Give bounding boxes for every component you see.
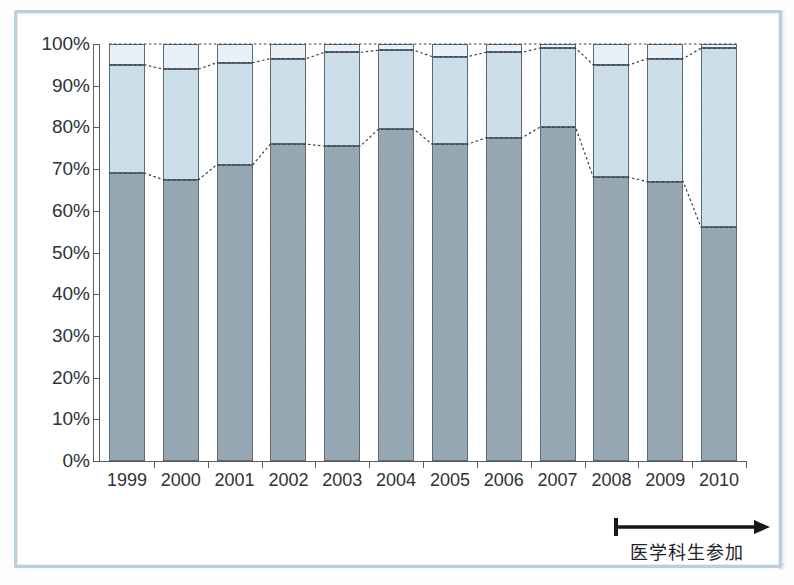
bar-segment-middle-2005	[432, 57, 468, 145]
y-axis-tick-70	[93, 169, 100, 170]
x-axis-label-1999: 1999	[107, 470, 147, 491]
bar-segment-top-2000	[163, 44, 199, 69]
x-axis-tick-2008	[638, 461, 639, 468]
bar-segment-middle-2003	[324, 52, 360, 146]
y-axis-tick-60	[93, 211, 100, 212]
bar-2008[interactable]	[593, 44, 629, 461]
y-axis-tick-20	[93, 378, 100, 379]
scanned-page: 0%10%20%30%40%50%60%70%80%90%100% 199920…	[0, 0, 794, 585]
bar-segment-bottom-2005	[432, 144, 468, 461]
x-axis-label-2010: 2010	[699, 470, 739, 491]
bar-2000[interactable]	[163, 44, 199, 461]
bar-segment-middle-2007	[540, 48, 576, 127]
bar-segment-middle-2000	[163, 69, 199, 180]
x-axis-label-2008: 2008	[591, 470, 631, 491]
bar-segment-middle-2009	[647, 59, 683, 182]
x-axis-label-2003: 2003	[322, 470, 362, 491]
bar-2006[interactable]	[486, 44, 522, 461]
y-axis-label-30: 30%	[52, 325, 90, 347]
bar-2005[interactable]	[432, 44, 468, 461]
x-axis-label-2006: 2006	[484, 470, 524, 491]
y-axis-tick-10	[93, 419, 100, 420]
bar-segment-bottom-2006	[486, 138, 522, 461]
bar-segment-bottom-2003	[324, 146, 360, 461]
bar-segment-bottom-2004	[378, 129, 414, 461]
bar-segment-bottom-2002	[270, 144, 306, 461]
stacked-bar-chart: 0%10%20%30%40%50%60%70%80%90%100% 199920…	[14, 10, 776, 562]
x-axis-label-2001: 2001	[215, 470, 255, 491]
x-axis-label-2009: 2009	[645, 470, 685, 491]
y-axis-tick-100	[93, 44, 100, 45]
x-axis-tick-2007	[585, 461, 586, 468]
x-axis-label-2004: 2004	[376, 470, 416, 491]
y-axis-label-90: 90%	[52, 75, 90, 97]
x-axis-label-2007: 2007	[538, 470, 578, 491]
bar-segment-middle-2001	[217, 63, 253, 165]
y-axis-label-80: 80%	[52, 116, 90, 138]
y-axis-bracket	[93, 44, 94, 461]
connector-line-bottom-segment	[109, 127, 737, 227]
y-axis-label-20: 20%	[52, 367, 90, 389]
x-axis-tick-1999	[154, 461, 155, 468]
x-axis-tick-2000	[208, 461, 209, 468]
bar-segment-middle-2008	[593, 65, 629, 178]
bar-2007[interactable]	[540, 44, 576, 461]
x-axis-label-2002: 2002	[268, 470, 308, 491]
bar-2009[interactable]	[647, 44, 683, 461]
bar-segment-top-2001	[217, 44, 253, 63]
bar-2003[interactable]	[324, 44, 360, 461]
bar-segment-top-2009	[647, 44, 683, 59]
bar-segment-bottom-2010	[701, 227, 737, 461]
bar-segment-middle-2010	[701, 48, 737, 227]
bar-2002[interactable]	[270, 44, 306, 461]
x-axis-tick-2002	[315, 461, 316, 468]
x-axis-label-2005: 2005	[430, 470, 470, 491]
bar-segment-middle-1999	[109, 65, 145, 173]
bar-segment-bottom-2009	[647, 182, 683, 461]
bar-segment-bottom-2007	[540, 127, 576, 461]
y-axis-label-100: 100%	[41, 33, 90, 55]
y-axis-label-0: 0%	[63, 450, 90, 472]
bar-segment-top-2007	[540, 44, 576, 48]
bar-segment-middle-2002	[270, 59, 306, 144]
bar-segment-bottom-2000	[163, 180, 199, 461]
y-axis-tick-90	[93, 86, 100, 87]
bar-segment-top-2006	[486, 44, 522, 52]
connector-line-middle-segment	[109, 48, 737, 69]
x-axis-label-2000: 2000	[161, 470, 201, 491]
y-axis-label-10: 10%	[52, 408, 90, 430]
plot-area: 0%10%20%30%40%50%60%70%80%90%100% 199920…	[99, 44, 746, 462]
bar-2001[interactable]	[217, 44, 253, 461]
y-axis-tick-80	[93, 127, 100, 128]
x-axis-tick-2005	[477, 461, 478, 468]
bar-2004[interactable]	[378, 44, 414, 461]
x-axis-tick-2004	[423, 461, 424, 468]
bar-segment-bottom-2008	[593, 177, 629, 461]
bar-2010[interactable]	[701, 44, 737, 461]
y-axis-tick-40	[93, 294, 100, 295]
y-axis-label-50: 50%	[52, 242, 90, 264]
y-axis-label-70: 70%	[52, 158, 90, 180]
x-axis-tick-2010	[746, 461, 747, 468]
bar-segment-top-2010	[701, 44, 737, 48]
y-axis-tick-0	[93, 461, 100, 462]
bar-segment-bottom-1999	[109, 173, 145, 461]
bar-segment-top-2004	[378, 44, 414, 50]
bar-segment-middle-2006	[486, 52, 522, 137]
annotation-label: 医学科生参加	[630, 538, 744, 564]
bar-segment-top-1999	[109, 44, 145, 65]
x-axis-tick-2001	[262, 461, 263, 468]
x-axis-tick-2006	[531, 461, 532, 468]
x-axis-tick-2009	[692, 461, 693, 468]
bar-segment-top-2005	[432, 44, 468, 57]
page-bottom-cutoff-text	[18, 572, 318, 585]
y-axis-tick-50	[93, 253, 100, 254]
bar-segment-middle-2004	[378, 50, 414, 129]
bar-1999[interactable]	[109, 44, 145, 461]
bar-segment-bottom-2001	[217, 165, 253, 461]
y-axis-label-60: 60%	[52, 200, 90, 222]
y-axis-label-40: 40%	[52, 283, 90, 305]
bar-segment-top-2002	[270, 44, 306, 59]
y-axis-tick-30	[93, 336, 100, 337]
bar-segment-top-2008	[593, 44, 629, 65]
